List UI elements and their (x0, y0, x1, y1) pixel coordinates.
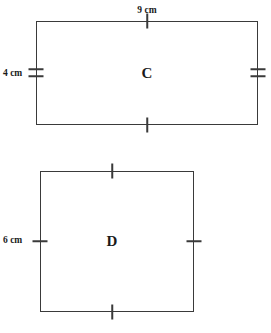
square-d-bottom-tick-mark (111, 305, 113, 320)
rectangle-c-left-tick-mark-1 (29, 68, 44, 70)
rectangle-c-top-tick-mark (146, 14, 148, 29)
square-d-left-dimension-label: 6 cm (3, 236, 22, 246)
rectangle-c-right-tick-mark-2 (251, 75, 266, 77)
rectangle-c-letter-label: C (142, 66, 153, 81)
square-d-right-tick-mark (187, 240, 202, 242)
diagram-canvas: C 9 cm 4 cm D 6 cm (0, 0, 271, 333)
rectangle-c-left-dimension-label: 4 cm (3, 69, 22, 79)
square-d-letter-label: D (107, 234, 118, 249)
rectangle-c-left-tick-mark-2 (29, 75, 44, 77)
square-d-left-tick-mark (33, 240, 48, 242)
rectangle-c-bottom-tick-mark (146, 118, 148, 133)
rectangle-c-right-tick-mark-1 (251, 68, 266, 70)
square-d-top-tick-mark (111, 164, 113, 179)
